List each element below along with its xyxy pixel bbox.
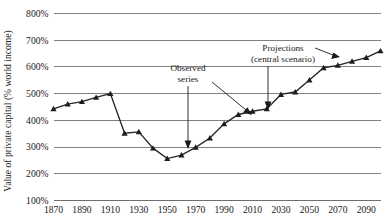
y-axis-title: Value of private capital (% world income… [2, 30, 14, 191]
x-tick-label-1930: 1930 [129, 204, 148, 215]
y-axis-title-text: Value of private capital (% world income… [2, 30, 14, 191]
y-tick-label-300%: 300% [26, 141, 48, 152]
x-tick-label-2070: 2070 [328, 204, 347, 215]
x-tick-label-1870: 1870 [44, 204, 63, 215]
y-tick-label-200%: 200% [26, 168, 48, 179]
x-tick-label-2030: 2030 [271, 204, 290, 215]
y-tick-label-700%: 700% [26, 35, 48, 46]
x-tick-label-1950: 1950 [158, 204, 177, 215]
projections-label-line2: (central scenario) [251, 54, 315, 64]
chart-background [0, 0, 387, 222]
x-tick-label-1910: 1910 [101, 204, 120, 215]
observed-series-label-line1: Observed [170, 63, 206, 73]
x-tick-label-2090: 2090 [357, 204, 376, 215]
x-tick-label-2010: 2010 [243, 204, 262, 215]
y-tick-label-500%: 500% [26, 88, 48, 99]
y-tick-label-400%: 400% [26, 115, 48, 126]
projections-label-line1: Projections [262, 43, 304, 53]
x-tick-label-1970: 1970 [186, 204, 205, 215]
capital-share-line-chart: 100%200%300%400%500%600%700%800% 1870189… [0, 0, 387, 222]
x-tick-label-1890: 1890 [72, 204, 91, 215]
x-tick-label-1990: 1990 [215, 204, 234, 215]
x-tick-label-2050: 2050 [300, 204, 319, 215]
y-tick-label-600%: 600% [26, 61, 48, 72]
chart-page: 100%200%300%400%500%600%700%800% 1870189… [0, 0, 387, 222]
y-tick-label-800%: 800% [26, 8, 48, 19]
observed-series-label-line2: series [178, 74, 199, 84]
